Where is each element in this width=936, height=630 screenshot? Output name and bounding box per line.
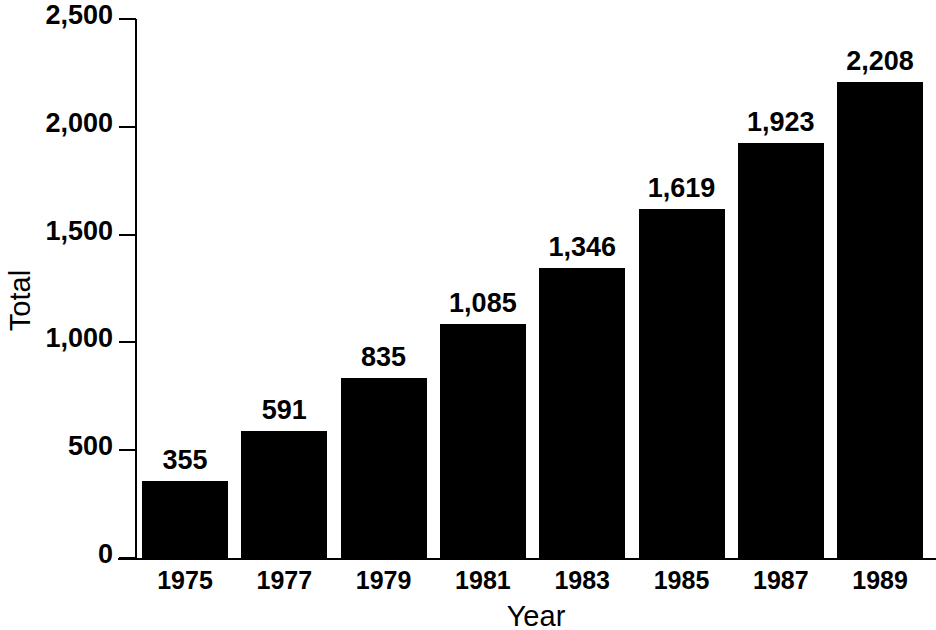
x-axis-tick-label: 1979 [327, 566, 441, 595]
bar-value-label: 835 [329, 342, 439, 373]
bar[interactable] [837, 82, 923, 558]
bar[interactable] [738, 143, 824, 558]
bar-value-label: 591 [229, 395, 339, 426]
x-axis-tick-label: 1985 [625, 566, 739, 595]
bar-value-label: 1,085 [428, 288, 538, 319]
x-axis-tick-label: 1981 [426, 566, 540, 595]
bar[interactable] [341, 378, 427, 558]
bar[interactable] [539, 268, 625, 558]
bar[interactable] [440, 324, 526, 558]
bar-value-label: 1,923 [726, 107, 836, 138]
bar-chart-figure: Total 05001,0001,5002,0002,500 355197559… [0, 0, 936, 630]
x-axis-tick-label: 1977 [227, 566, 341, 595]
bar[interactable] [241, 431, 327, 558]
bar-value-label: 2,208 [825, 46, 935, 77]
x-axis-tick-label: 1987 [724, 566, 838, 595]
bar-value-label: 355 [130, 445, 240, 476]
x-axis-tick-label: 1983 [525, 566, 639, 595]
bar[interactable] [639, 209, 725, 558]
x-axis-title: Year [136, 600, 936, 630]
bar-value-label: 1,619 [627, 173, 737, 204]
x-axis-tick-label: 1975 [128, 566, 242, 595]
bar[interactable] [142, 481, 228, 558]
x-axis-tick-label: 1989 [823, 566, 936, 595]
plot-area: 3551975591197783519791,08519811,34619831… [0, 0, 936, 630]
bar-value-label: 1,346 [527, 232, 637, 263]
